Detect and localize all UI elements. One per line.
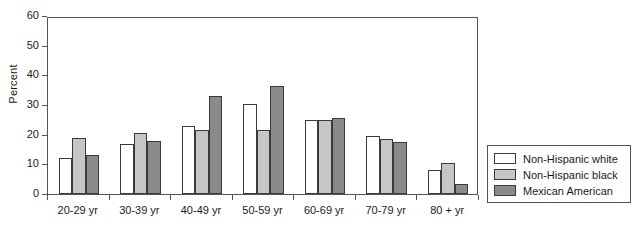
x-tick-mark (355, 195, 356, 200)
y-tick-label: 50 (0, 39, 39, 51)
bar-chart-figure: Percent 0102030405060 20-29 yr30-39 yr40… (0, 0, 637, 231)
bar (195, 130, 209, 194)
y-tick-label: 10 (0, 157, 39, 169)
bar-group (305, 16, 346, 194)
x-tick-label: 80 + yr (403, 204, 491, 216)
legend-swatch (494, 185, 516, 196)
bar-group (182, 16, 223, 194)
bar (318, 120, 332, 194)
plot-area (47, 17, 478, 195)
legend-swatch (494, 169, 516, 180)
bar (134, 133, 148, 194)
bar-group (428, 16, 469, 194)
bar-group (366, 16, 407, 194)
bar (428, 170, 442, 194)
bar (332, 118, 346, 194)
bar-group (243, 16, 284, 194)
bar (120, 144, 134, 194)
bar (305, 120, 319, 194)
bar (209, 96, 223, 194)
bar (147, 141, 161, 194)
bar (59, 158, 73, 194)
bar (270, 86, 284, 194)
x-tick-mark (232, 195, 233, 200)
bar (243, 104, 257, 194)
x-tick-mark (47, 195, 48, 200)
bar (366, 136, 380, 194)
bar (455, 184, 469, 194)
y-tick-label: 40 (0, 68, 39, 80)
y-tick-label: 0 (0, 187, 39, 199)
bar (380, 139, 394, 194)
legend-item: Mexican American (494, 183, 624, 198)
bar (393, 142, 407, 194)
legend-label: Non-Hispanic white (523, 153, 618, 165)
bar (257, 130, 271, 194)
bar-group (120, 16, 161, 194)
bar (86, 155, 100, 194)
bar (72, 138, 86, 194)
x-tick-mark (478, 195, 479, 200)
y-tick-label: 30 (0, 98, 39, 110)
legend-item: Non-Hispanic black (494, 167, 624, 182)
legend-label: Non-Hispanic black (523, 169, 618, 181)
y-tick-label: 20 (0, 128, 39, 140)
legend: Non-Hispanic whiteNon-Hispanic blackMexi… (487, 145, 631, 203)
bar-group (59, 16, 100, 194)
bar (182, 126, 196, 194)
x-tick-mark (170, 195, 171, 200)
y-tick-label: 60 (0, 9, 39, 21)
x-tick-mark (109, 195, 110, 200)
legend-swatch (494, 153, 516, 164)
legend-label: Mexican American (523, 185, 613, 197)
bar (441, 163, 455, 194)
x-tick-mark (293, 195, 294, 200)
x-tick-mark (416, 195, 417, 200)
legend-item: Non-Hispanic white (494, 151, 624, 166)
